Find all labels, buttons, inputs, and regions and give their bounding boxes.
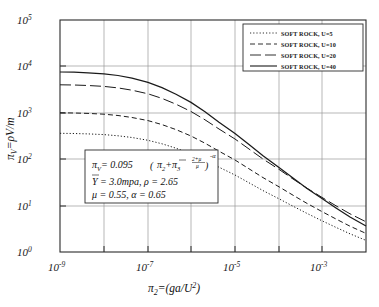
equation-line-3: μ = 0.55, α = 0.65 [91, 189, 166, 200]
legend-label: SOFT ROCK, U=40 [281, 63, 336, 70]
legend-label: SOFT ROCK, U=10 [281, 41, 336, 48]
legend-label: SOFT ROCK, U=5 [281, 30, 333, 37]
legend: SOFT ROCK, U=5 SOFT ROCK, U=10 SOFT ROCK… [243, 24, 363, 71]
log-log-plot: 105 104 103 102 101 100 10-9 1 [0, 0, 379, 307]
fraction-denominator: μ [196, 163, 199, 169]
fraction-numerator: 2+μ [192, 156, 201, 162]
equation-annotation: πV= 0.095 ( π2+π3 2+μ μ ) -α Y = 3.0mpa,… [85, 150, 218, 203]
legend-label: SOFT ROCK, U=20 [281, 52, 336, 59]
chart-figure: 105 104 103 102 101 100 10-9 1 [0, 0, 379, 307]
equation-paren-close: ) [204, 160, 209, 172]
equation-line-2: Y = 3.0mpa, ρ = 2.65 [92, 176, 178, 187]
equation-outer-exponent: -α [210, 152, 216, 159]
